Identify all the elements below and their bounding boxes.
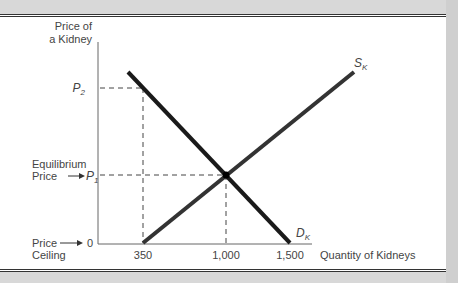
chart: Price of a Kidney P2 Equilibrium Price P… bbox=[0, 0, 458, 283]
ceiling-label-1: Price bbox=[32, 237, 57, 249]
ceiling-arrowhead-icon bbox=[77, 240, 83, 246]
x-axis-label: Quantity of Kidneys bbox=[320, 249, 416, 261]
demand-label: DK bbox=[296, 226, 311, 242]
zero-label: 0 bbox=[87, 237, 93, 249]
ceiling-label-2: Ceiling bbox=[32, 249, 66, 261]
tick-350: 350 bbox=[134, 249, 152, 261]
equilibrium-label-2: Price bbox=[32, 170, 57, 182]
supply-label: SK bbox=[354, 56, 368, 72]
supply-curve bbox=[143, 72, 354, 243]
p2-label: P2 bbox=[73, 81, 86, 97]
tick-1000: 1,000 bbox=[212, 249, 240, 261]
p1-label: P1 bbox=[86, 169, 98, 185]
equilibrium-label-1: Equilibrium bbox=[32, 158, 86, 170]
y-axis-label-1: Price of bbox=[55, 20, 93, 32]
tick-1500: 1,500 bbox=[276, 249, 304, 261]
demand-curve bbox=[128, 72, 290, 243]
equilibrium-point bbox=[223, 172, 230, 179]
eq-arrowhead-icon bbox=[79, 173, 85, 179]
y-axis-label-2: a Kidney bbox=[49, 33, 92, 45]
